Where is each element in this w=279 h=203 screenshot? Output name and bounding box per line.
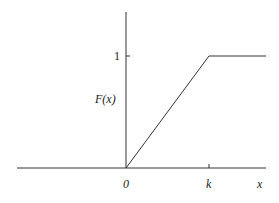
y-axis-label: F(x)	[95, 93, 116, 105]
cdf-line	[126, 56, 266, 168]
y-tick-label-1: 1	[114, 50, 120, 62]
cdf-plot	[0, 0, 279, 203]
x-tick-label-k: k	[206, 178, 211, 190]
x-axis-label: x	[257, 178, 262, 190]
origin-label: 0	[123, 178, 129, 190]
